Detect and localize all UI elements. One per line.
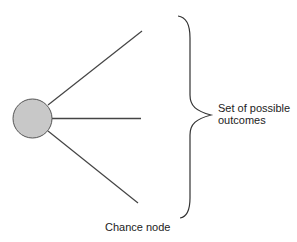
- outcomes-brace: [178, 16, 211, 218]
- chance-node-diagram: Set of possible outcomes Chance node: [0, 0, 297, 242]
- chance-node-circle: [13, 99, 52, 138]
- branch-line-top: [48, 31, 142, 105]
- branch-line-bottom: [48, 131, 138, 203]
- outcomes-label-line2: outcomes: [218, 114, 290, 126]
- outcomes-label-line1: Set of possible: [218, 102, 290, 114]
- chance-node-label: Chance node: [105, 221, 170, 233]
- outcomes-label: Set of possible outcomes: [218, 102, 290, 126]
